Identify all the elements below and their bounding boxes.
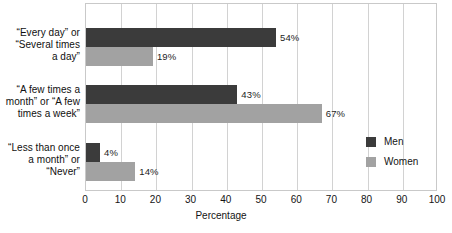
x-axis-title-text: Percentage [195, 210, 246, 221]
legend-swatch-women-icon [366, 157, 376, 167]
x-tick-label-20: 20 [140, 194, 170, 205]
gridline-70 [332, 4, 333, 190]
legend-item-women: Women [366, 156, 418, 167]
bar-women-2 [86, 162, 135, 181]
legend-label-men: Men [384, 136, 403, 147]
bar-men-1 [86, 85, 237, 104]
x-tick-label-80: 80 [352, 194, 382, 205]
bar-value-label-women-0: 19% [157, 51, 176, 62]
bar-women-1 [86, 104, 322, 123]
x-tick-label-10: 10 [105, 194, 135, 205]
bar-value-label-men-2: 4% [104, 147, 118, 158]
x-tick-label-70: 70 [316, 194, 346, 205]
bar-value-label-women-1: 67% [326, 108, 345, 119]
x-tick-label-50: 50 [246, 194, 276, 205]
bar-men-0 [86, 28, 276, 47]
category-label-2: “Less than once a month” or “Never” [0, 142, 80, 177]
x-axis-title: Percentage [0, 210, 452, 221]
bar-men-2 [86, 143, 100, 162]
bar-women-0 [86, 47, 153, 66]
bar-chart: “Every day” or “Several times a day” “A … [0, 0, 452, 233]
x-tick-label-30: 30 [176, 194, 206, 205]
chart-legend: Men Women [366, 136, 418, 176]
bar-value-label-women-2: 14% [139, 166, 158, 177]
category-label-0: “Every day” or “Several times a day” [0, 27, 80, 62]
legend-swatch-men-icon [366, 137, 376, 147]
x-tick-label-60: 60 [281, 194, 311, 205]
legend-label-women: Women [384, 156, 418, 167]
x-tick-label-40: 40 [211, 194, 241, 205]
x-tick-label-100: 100 [422, 194, 452, 205]
legend-item-men: Men [366, 136, 418, 147]
category-label-1: “A few times a month” or “A few times a … [0, 84, 80, 119]
x-tick-label-90: 90 [387, 194, 417, 205]
bar-value-label-men-0: 54% [280, 32, 299, 43]
bar-value-label-men-1: 43% [241, 89, 260, 100]
x-tick-label-0: 0 [70, 194, 100, 205]
